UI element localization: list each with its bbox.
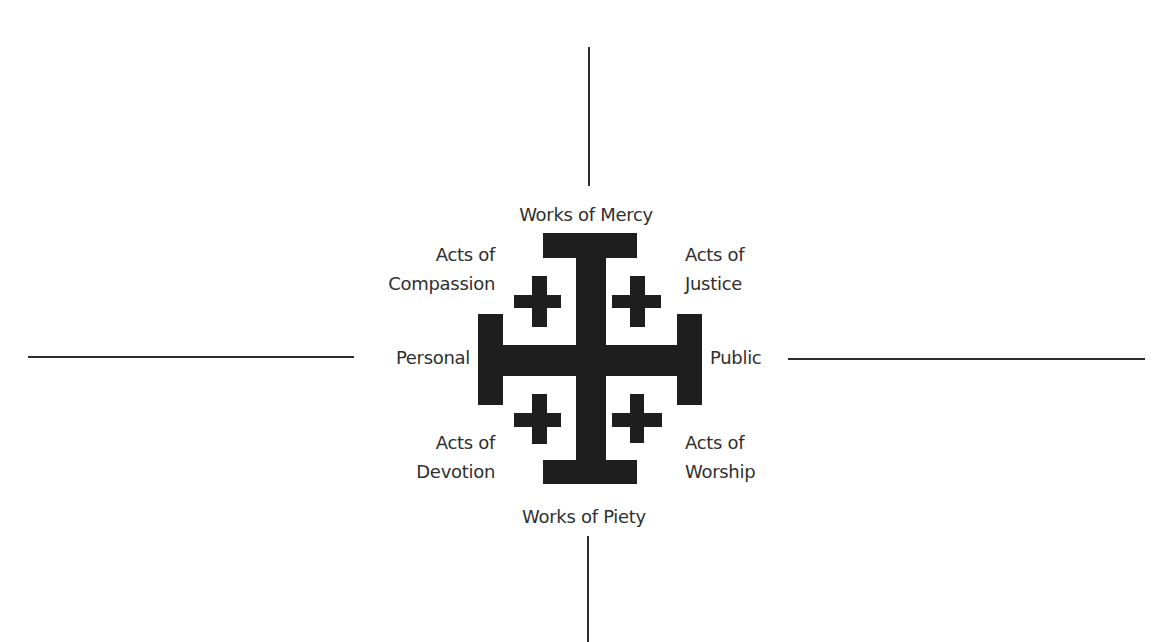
quadrant-label-compassion: Acts of Compassion bbox=[360, 240, 495, 298]
cross-horizontal-stem bbox=[478, 345, 702, 376]
quadrant-label-line: Worship bbox=[685, 457, 785, 486]
quadrant-label-line: Justice bbox=[685, 269, 785, 298]
quadrant-label-line: Acts of bbox=[685, 240, 785, 269]
quadrant-label-line: Devotion bbox=[380, 457, 495, 486]
axis-line-right bbox=[788, 358, 1145, 360]
label-works-of-mercy: Works of Mercy bbox=[509, 200, 663, 229]
axis-line-top bbox=[588, 47, 590, 186]
quadrant-label-justice: Acts of Justice bbox=[685, 240, 785, 298]
quadrant-label-line: Compassion bbox=[360, 269, 495, 298]
quadrant-label-devotion: Acts of Devotion bbox=[380, 428, 495, 486]
quadrant-label-line: Acts of bbox=[360, 240, 495, 269]
diagram-canvas: Works of Mercy Works of Piety Personal P… bbox=[0, 0, 1169, 642]
cross-top-bar bbox=[543, 233, 637, 258]
quadrant-label-worship: Acts of Worship bbox=[685, 428, 785, 486]
cross-left-bar bbox=[478, 314, 503, 405]
label-works-of-piety: Works of Piety bbox=[512, 502, 656, 531]
quadrant-label-line: Acts of bbox=[380, 428, 495, 457]
cross-right-bar bbox=[677, 314, 702, 405]
axis-line-bottom bbox=[587, 536, 589, 642]
cross-bottom-bar bbox=[543, 460, 637, 484]
label-personal: Personal bbox=[374, 343, 470, 372]
label-public: Public bbox=[710, 343, 774, 372]
axis-line-left bbox=[28, 356, 354, 358]
quadrant-label-line: Acts of bbox=[685, 428, 785, 457]
